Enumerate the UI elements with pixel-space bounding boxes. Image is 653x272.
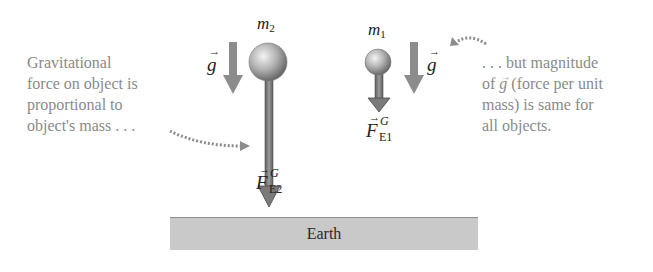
- callout-arrow-right: [450, 37, 486, 46]
- g-arrow-m1: [404, 42, 424, 94]
- left-annotation: Gravitational force on object is proport…: [27, 52, 187, 136]
- g-arrow-m2: [223, 42, 243, 94]
- left-annotation-line: force on object is: [27, 73, 187, 94]
- g-label-m2: → g: [207, 54, 217, 76]
- vector-arrow-icon: →: [369, 111, 380, 123]
- force-label-e1: → F G E1: [366, 120, 378, 142]
- right-annotation-line: all objects.: [482, 115, 652, 136]
- right-annotation: . . . but magnitude of →g (force per uni…: [482, 52, 652, 136]
- mass-label-m2: m2: [257, 14, 275, 34]
- left-annotation-line: Gravitational: [27, 52, 187, 73]
- left-annotation-line: proportional to: [27, 94, 187, 115]
- vector-arrow-icon: →: [209, 45, 220, 57]
- g-vector-inline: →g: [499, 75, 507, 92]
- mass-label-m1: m1: [368, 20, 386, 40]
- vector-arrow-icon: →: [259, 163, 270, 175]
- earth-ground: Earth: [170, 217, 478, 250]
- earth-label: Earth: [307, 225, 342, 243]
- g-label-m1: → g: [427, 54, 437, 76]
- vector-arrow-icon: →: [500, 66, 510, 87]
- right-annotation-line: mass) is same for: [482, 94, 652, 115]
- left-annotation-line: object's mass . . .: [27, 115, 187, 136]
- force-label-e2: → F G E2: [256, 172, 268, 194]
- mass-m1-ball: [365, 49, 391, 75]
- mass-m2-ball: [249, 43, 287, 81]
- vector-arrow-icon: →: [429, 45, 440, 57]
- right-annotation-line: of →g (force per unit: [482, 73, 652, 94]
